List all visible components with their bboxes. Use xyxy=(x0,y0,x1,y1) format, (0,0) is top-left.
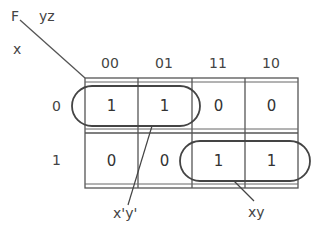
cell-r0-c11: 0 xyxy=(192,78,245,133)
column-header-10: 10 xyxy=(262,56,280,70)
column-header-00: 00 xyxy=(101,56,119,70)
cell-r0-c01: 1 xyxy=(138,78,191,133)
group-label-xpyp: x'y' xyxy=(113,206,137,220)
cell-r1-c11: 1 xyxy=(192,133,245,188)
function-label: F xyxy=(11,9,19,23)
cell-r0-c00: 1 xyxy=(85,78,138,133)
row-header-0: 0 xyxy=(52,99,61,113)
cell-r0-c10: 0 xyxy=(245,78,298,133)
column-variables-label: yz xyxy=(39,9,55,23)
group-label-xy: xy xyxy=(248,205,265,219)
cell-r1-c00: 0 xyxy=(85,133,138,188)
column-header-11: 11 xyxy=(209,56,227,70)
cell-r1-c01: 0 xyxy=(138,133,191,188)
row-variable-label: x xyxy=(13,42,21,56)
cell-r1-c10: 1 xyxy=(245,133,298,188)
column-header-01: 01 xyxy=(155,56,173,70)
row-header-1: 1 xyxy=(52,153,61,167)
diagonal-divider xyxy=(20,20,85,78)
